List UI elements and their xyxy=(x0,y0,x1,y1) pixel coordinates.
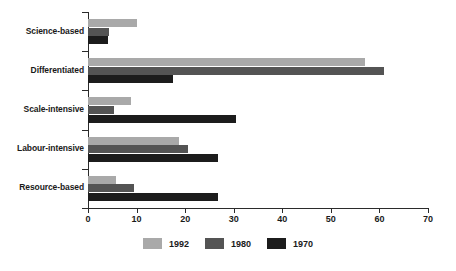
x-tick-label: 50 xyxy=(326,214,336,224)
bar-1970 xyxy=(88,36,108,44)
bar-1970 xyxy=(88,115,236,123)
x-tick-label: 20 xyxy=(180,214,190,224)
x-tick-label: 0 xyxy=(85,214,90,224)
x-tick xyxy=(185,208,186,213)
bar-1992 xyxy=(88,137,179,145)
bar-1980 xyxy=(88,106,114,114)
bar-1970 xyxy=(88,193,218,201)
bar-1980 xyxy=(88,67,384,75)
legend-item-1970[interactable]: 1970 xyxy=(267,238,313,249)
x-tick xyxy=(428,208,429,213)
category-label: Differentiated xyxy=(2,65,84,75)
x-tick xyxy=(88,208,89,213)
bar-group xyxy=(88,51,428,90)
x-tick xyxy=(331,208,332,213)
category-label: Resource-based xyxy=(2,182,84,192)
bar-1980 xyxy=(88,184,134,192)
bar-1992 xyxy=(88,58,365,66)
bar-1992 xyxy=(88,19,137,27)
category-label: Scale-intensive xyxy=(2,104,84,114)
x-tick xyxy=(282,208,283,213)
legend-swatch-icon xyxy=(143,238,162,249)
bar-1980 xyxy=(88,145,188,153)
x-tick xyxy=(379,208,380,213)
bar-1992 xyxy=(88,97,131,105)
bar-1970 xyxy=(88,154,218,162)
x-tick-label: 30 xyxy=(229,214,239,224)
y-axis-tick-labels: Science-basedDifferentiatedScale-intensi… xyxy=(0,12,84,208)
bar-group xyxy=(88,169,428,208)
bar-group xyxy=(88,12,428,51)
x-tick-label: 10 xyxy=(132,214,142,224)
bar-group xyxy=(88,90,428,129)
x-tick-label: 70 xyxy=(423,214,433,224)
category-label: Science-based xyxy=(2,26,84,36)
bar-1992 xyxy=(88,176,116,184)
legend-item-1992[interactable]: 1992 xyxy=(143,238,189,249)
bar-1980 xyxy=(88,28,109,36)
bar-group xyxy=(88,130,428,169)
legend-item-1980[interactable]: 1980 xyxy=(205,238,251,249)
chart-legend: 199219801970 xyxy=(0,238,456,249)
x-tick xyxy=(234,208,235,213)
x-axis-line xyxy=(88,208,429,209)
category-label: Labour-intensive xyxy=(2,143,84,153)
plot-area xyxy=(88,12,428,208)
bar-1970 xyxy=(88,75,173,83)
legend-label: 1980 xyxy=(231,239,251,249)
legend-swatch-icon xyxy=(205,238,224,249)
x-tick-label: 40 xyxy=(277,214,287,224)
x-tick xyxy=(137,208,138,213)
bar-chart: Science-basedDifferentiatedScale-intensi… xyxy=(0,0,456,271)
legend-swatch-icon xyxy=(267,238,286,249)
legend-label: 1970 xyxy=(293,239,313,249)
x-tick-label: 60 xyxy=(374,214,384,224)
legend-label: 1992 xyxy=(169,239,189,249)
